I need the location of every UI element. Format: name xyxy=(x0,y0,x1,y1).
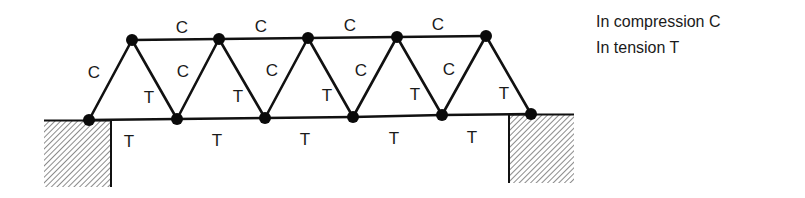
right-support xyxy=(509,115,574,183)
legend-compression: In compression C xyxy=(596,13,721,31)
top-chord-label: C xyxy=(255,17,267,36)
falling-diagonal-member xyxy=(132,40,177,119)
left-support xyxy=(44,121,111,187)
joint-node xyxy=(347,111,359,123)
legend-tension: In tension T xyxy=(596,39,679,57)
top-chord-label: C xyxy=(344,16,356,35)
diagonal-compression-label: C xyxy=(355,61,367,80)
diagonal-tension-label: T xyxy=(499,84,509,103)
bottom-chord-member xyxy=(442,114,531,115)
bottom-chord-member xyxy=(265,117,353,118)
bottom-chord-member xyxy=(177,118,265,119)
bottom-chord-label: T xyxy=(389,129,399,148)
joint-node xyxy=(83,114,95,126)
top-chord-member xyxy=(308,37,397,38)
falling-diagonal-member xyxy=(219,39,265,118)
right-support-block xyxy=(509,115,574,183)
bottom-chord-label: T xyxy=(212,131,222,150)
joint-node xyxy=(171,113,183,125)
diagonal-tension-label: T xyxy=(144,88,154,107)
bottom-chord-member xyxy=(89,119,177,120)
bottom-chord-member xyxy=(353,115,442,117)
top-chord-label: C xyxy=(176,18,188,37)
diagonal-compression-label: C xyxy=(177,62,189,81)
falling-diagonal-member xyxy=(308,38,353,117)
left-support-block xyxy=(44,121,111,187)
truss-members xyxy=(89,36,531,120)
top-chord-member xyxy=(132,39,219,40)
joint-node xyxy=(126,34,138,46)
diagonal-compression-label: C xyxy=(443,60,455,79)
joint-node xyxy=(302,32,314,44)
joint-node xyxy=(436,109,448,121)
bottom-chord-label: T xyxy=(124,132,134,151)
diagonal-tension-label: T xyxy=(322,86,332,105)
bottom-chord-label: T xyxy=(300,130,310,149)
top-chord-member xyxy=(397,36,486,37)
joint-node xyxy=(259,112,271,124)
joint-node xyxy=(525,108,537,120)
top-chord-member xyxy=(219,38,308,39)
joint-node xyxy=(480,30,492,42)
top-chord-label: C xyxy=(432,15,444,34)
joint-node xyxy=(213,33,225,45)
bottom-chord-label: T xyxy=(467,128,477,147)
diagonal-tension-label: T xyxy=(410,85,420,104)
diagonal-compression-label: C xyxy=(266,61,278,80)
truss-joints xyxy=(83,30,537,126)
diagonal-compression-label: C xyxy=(88,63,100,82)
diagonal-tension-label: T xyxy=(233,87,243,106)
joint-node xyxy=(391,31,403,43)
